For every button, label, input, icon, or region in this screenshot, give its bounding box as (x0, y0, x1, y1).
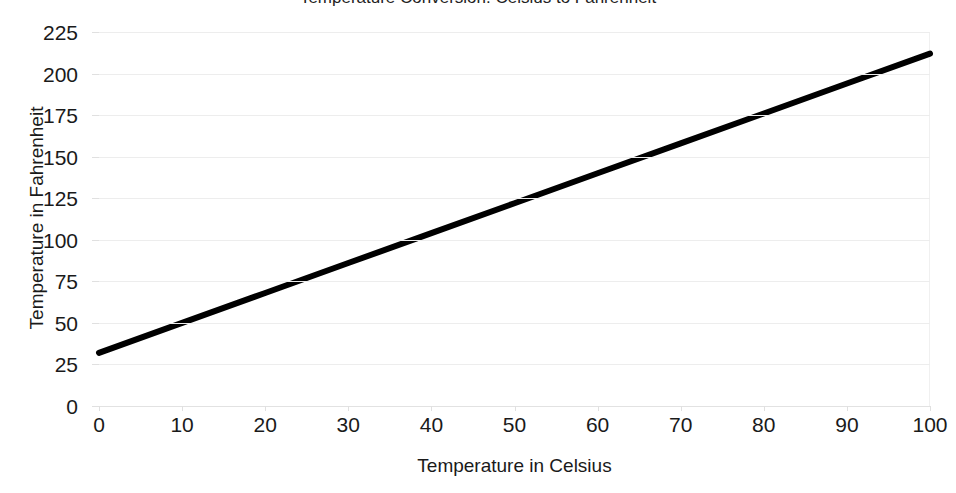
gridline-y-25 (99, 364, 930, 365)
x-tick-0 (99, 406, 100, 411)
y-tick-175 (92, 115, 99, 116)
x-tick-60 (598, 406, 599, 411)
x-tick-100 (930, 406, 931, 411)
gridline-y-75 (99, 281, 930, 282)
chart-container: Temperature Conversion: Celsius to Fahre… (0, 0, 956, 493)
y-tick-125 (92, 198, 99, 199)
x-tick-label-70: 70 (669, 414, 692, 435)
y-tick-100 (92, 240, 99, 241)
y-tick-225 (92, 32, 99, 33)
y-tick-50 (92, 323, 99, 324)
x-tick-30 (348, 406, 349, 411)
gridline-y-125 (99, 198, 930, 199)
x-tick-label-80: 80 (752, 414, 775, 435)
x-axis-tick-labels: 0102030405060708090100 (0, 414, 956, 444)
x-tick-label-20: 20 (254, 414, 277, 435)
gridline-y-175 (99, 115, 930, 116)
x-tick-80 (764, 406, 765, 411)
y-tick-label-150: 150 (43, 146, 78, 167)
x-tick-70 (681, 406, 682, 411)
x-tick-label-50: 50 (503, 414, 526, 435)
gridline-y-225 (99, 32, 930, 33)
y-tick-label-200: 200 (43, 63, 78, 84)
x-tick-label-40: 40 (420, 414, 443, 435)
y-tick-label-50: 50 (55, 312, 78, 333)
y-tick-75 (92, 281, 99, 282)
plot-area (99, 32, 930, 406)
x-tick-label-100: 100 (912, 414, 947, 435)
x-tick-40 (431, 406, 432, 411)
y-tick-25 (92, 364, 99, 365)
y-tick-label-175: 175 (43, 105, 78, 126)
y-tick-150 (92, 157, 99, 158)
y-tick-label-75: 75 (55, 271, 78, 292)
x-tick-label-10: 10 (170, 414, 193, 435)
x-tick-50 (515, 406, 516, 411)
y-tick-label-125: 125 (43, 188, 78, 209)
x-tick-label-0: 0 (93, 414, 105, 435)
x-tick-label-60: 60 (586, 414, 609, 435)
chart-title: Temperature Conversion: Celsius to Fahre… (0, 0, 956, 8)
x-tick-label-90: 90 (835, 414, 858, 435)
x-axis-title: Temperature in Celsius (99, 455, 930, 477)
x-tick-90 (847, 406, 848, 411)
x-tick-10 (182, 406, 183, 411)
y-tick-label-225: 225 (43, 22, 78, 43)
x-tick-label-30: 30 (337, 414, 360, 435)
x-tick-20 (265, 406, 266, 411)
series-line-fahrenheit (99, 32, 930, 406)
y-tick-label-25: 25 (55, 354, 78, 375)
gridline-y-150 (99, 157, 930, 158)
gridline-y-100 (99, 240, 930, 241)
gridline-y-200 (99, 74, 930, 75)
y-tick-label-100: 100 (43, 229, 78, 250)
y-tick-200 (92, 74, 99, 75)
y-tick-0 (92, 406, 99, 407)
gridline-y-50 (99, 323, 930, 324)
